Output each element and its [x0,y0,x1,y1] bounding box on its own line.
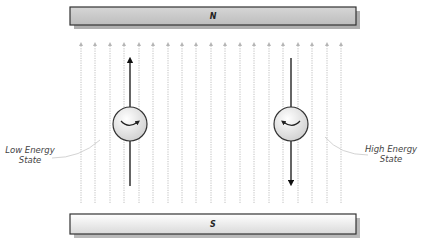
high-energy-label-line1: High Energy [365,144,418,154]
low-energy-label: Low Energy State [5,140,100,165]
north-label: N [210,12,217,21]
north-magnet: N [70,7,360,29]
high-energy-leader-line [325,137,368,155]
low-energy-label-line1: Low Energy [5,145,55,155]
high-energy-label-line2: State [380,154,403,164]
low-energy-leader-line [52,140,100,158]
low-energy-spin [113,60,147,186]
nmr-spin-diagram: N S Low Energy State High Energy State [0,0,422,246]
nucleus-sphere [113,107,147,141]
south-magnet: S [70,214,360,238]
south-label: S [210,220,216,229]
high-energy-spin [274,58,308,183]
low-energy-label-line2: State [19,155,42,165]
nucleus-sphere [274,107,308,141]
high-energy-label: High Energy State [325,137,418,164]
